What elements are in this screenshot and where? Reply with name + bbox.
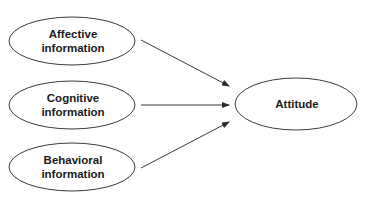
- affective-label-line2: information: [41, 41, 104, 55]
- cognitive-information-label: Cognitive information: [41, 91, 104, 119]
- behavioral-information-label: Behavioral information: [41, 153, 104, 181]
- cognitive-label-line2: information: [41, 105, 104, 119]
- affective-information-label: Affective information: [41, 27, 104, 55]
- arrow-behavioral-to-attitude: [141, 122, 229, 168]
- attitude-label: Attitude: [275, 97, 318, 111]
- behavioral-label-line1: Behavioral: [41, 153, 104, 167]
- affective-label-line1: Affective: [41, 27, 104, 41]
- cognitive-label-line1: Cognitive: [41, 91, 104, 105]
- behavioral-label-line2: information: [41, 167, 104, 181]
- arrow-affective-to-attitude: [141, 40, 229, 86]
- attitude-label-text: Attitude: [275, 97, 318, 111]
